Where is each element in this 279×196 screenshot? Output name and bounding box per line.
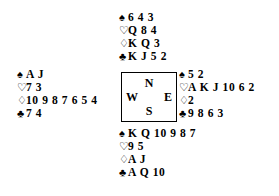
hand-north-spades: 6 4 3 — [128, 11, 154, 24]
spade-icon: ♠ — [119, 127, 128, 140]
hand-west-hearts-line: ♡ 7 3 — [17, 81, 98, 94]
compass-box: N W E S — [121, 72, 177, 122]
hand-west-spades-line: ♠ A J — [17, 68, 98, 81]
heart-icon: ♡ — [119, 24, 128, 37]
heart-icon: ♡ — [119, 140, 128, 153]
hand-west-diamonds-line: ♢ 10 9 8 7 6 5 4 — [17, 94, 98, 107]
hand-east-diamonds: 2 — [188, 94, 194, 107]
diamond-icon: ♢ — [179, 94, 188, 107]
hand-south-hearts: 9 5 — [128, 140, 144, 153]
compass-label-west: W — [126, 91, 138, 103]
diamond-icon: ♢ — [17, 94, 26, 107]
bridge-deal-diagram: ♠ 6 4 3 ♡ Q 8 4 ♢ K Q 3 ♣ K J 5 2 ♠ A J … — [0, 0, 279, 196]
hand-east-clubs: 9 8 6 3 — [188, 107, 224, 120]
hand-north-clubs: K J 5 2 — [128, 50, 167, 63]
hand-east-hearts: A K J 10 6 2 — [188, 81, 255, 94]
hand-west-clubs: 7 4 — [26, 107, 42, 120]
compass-label-east: E — [164, 91, 172, 103]
hand-west: ♠ A J ♡ 7 3 ♢ 10 9 8 7 6 5 4 ♣ 7 4 — [17, 68, 98, 120]
compass-label-south: S — [146, 105, 153, 117]
hand-west-spades: A J — [26, 68, 44, 81]
spade-icon: ♠ — [179, 68, 188, 81]
hand-south: ♠ K Q 10 9 8 7 ♡ 9 5 ♢ A J ♣ A Q 10 — [119, 127, 196, 179]
hand-south-hearts-line: ♡ 9 5 — [119, 140, 196, 153]
hand-north-diamonds: K Q 3 — [128, 37, 160, 50]
hand-south-spades: K Q 10 9 8 7 — [128, 127, 196, 140]
club-icon: ♣ — [119, 166, 128, 179]
club-icon: ♣ — [119, 50, 128, 63]
heart-icon: ♡ — [17, 81, 26, 94]
hand-west-diamonds: 10 9 8 7 6 5 4 — [26, 94, 98, 107]
hand-east-spades: 5 2 — [188, 68, 204, 81]
hand-east-spades-line: ♠ 5 2 — [179, 68, 255, 81]
hand-north-clubs-line: ♣ K J 5 2 — [119, 50, 167, 63]
hand-east: ♠ 5 2 ♡ A K J 10 6 2 ♢ 2 ♣ 9 8 6 3 — [179, 68, 255, 120]
compass-label-north: N — [145, 77, 154, 89]
hand-south-spades-line: ♠ K Q 10 9 8 7 — [119, 127, 196, 140]
hand-north: ♠ 6 4 3 ♡ Q 8 4 ♢ K Q 3 ♣ K J 5 2 — [119, 11, 167, 63]
hand-east-diamonds-line: ♢ 2 — [179, 94, 255, 107]
hand-north-hearts-line: ♡ Q 8 4 — [119, 24, 167, 37]
hand-south-diamonds-line: ♢ A J — [119, 153, 196, 166]
hand-north-diamonds-line: ♢ K Q 3 — [119, 37, 167, 50]
diamond-icon: ♢ — [119, 37, 128, 50]
hand-north-hearts: Q 8 4 — [128, 24, 157, 37]
heart-icon: ♡ — [179, 81, 188, 94]
club-icon: ♣ — [179, 107, 188, 120]
club-icon: ♣ — [17, 107, 26, 120]
hand-south-clubs-line: ♣ A Q 10 — [119, 166, 196, 179]
hand-east-clubs-line: ♣ 9 8 6 3 — [179, 107, 255, 120]
hand-north-spades-line: ♠ 6 4 3 — [119, 11, 167, 24]
spade-icon: ♠ — [119, 11, 128, 24]
hand-west-hearts: 7 3 — [26, 81, 42, 94]
hand-east-hearts-line: ♡ A K J 10 6 2 — [179, 81, 255, 94]
hand-south-clubs: A Q 10 — [128, 166, 165, 179]
spade-icon: ♠ — [17, 68, 26, 81]
hand-south-diamonds: A J — [128, 153, 146, 166]
diamond-icon: ♢ — [119, 153, 128, 166]
hand-west-clubs-line: ♣ 7 4 — [17, 107, 98, 120]
